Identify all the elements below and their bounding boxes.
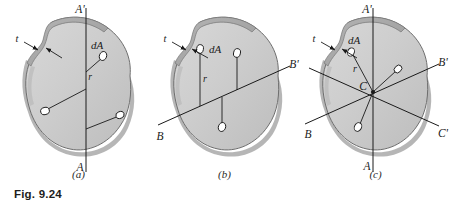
thickness-label-t: t (164, 33, 168, 44)
plate-body (26, 17, 131, 150)
axis-label-a-prime: A' (361, 3, 372, 15)
panel-a-drawing: A' A t dA r (0, 0, 153, 190)
radius-label-r: r (88, 72, 92, 82)
thickness-label-t: t (313, 33, 317, 44)
radius-label-r: r (353, 63, 357, 74)
axis-label-c-prime: C' (438, 127, 449, 139)
plate-body (323, 17, 428, 150)
axis-label-b: B (156, 130, 163, 142)
centroid-label-c: C (359, 80, 367, 92)
area-element-label-da: dA (209, 43, 222, 55)
thickness-leader-1 (172, 42, 186, 50)
figure-panel-b: t dA r B B' (b) (148, 0, 301, 190)
figure-panel-a: A' A t dA r (a) (0, 0, 153, 190)
figure-caption: Fig. 9.24 (14, 188, 62, 200)
panel-caption-a: (a) (2, 168, 155, 180)
thickness-leader-1 (321, 42, 335, 50)
figure-panel-c: A' A B B' C' C t dA r (c) (297, 0, 450, 190)
figure-container: A' A t dA r (a) (0, 0, 459, 212)
panel-c-drawing: A' A B B' C' C t dA r (297, 0, 450, 190)
panel-caption-b: (b) (148, 168, 301, 180)
axis-label-a-prime: A' (74, 3, 85, 15)
area-element-label-da: dA (91, 39, 104, 51)
thickness-label-t: t (16, 33, 20, 44)
axis-label-b-prime: B' (438, 56, 448, 68)
panel-caption-c: (c) (299, 168, 452, 180)
radius-label-r: r (203, 73, 207, 84)
plate-body (174, 17, 279, 150)
centroid-point (371, 90, 375, 94)
axis-label-b: B (304, 128, 311, 140)
area-element-label-da: dA (348, 34, 361, 46)
thickness-leader-1 (24, 42, 38, 50)
panel-b-drawing: t dA r B B' (148, 0, 301, 190)
